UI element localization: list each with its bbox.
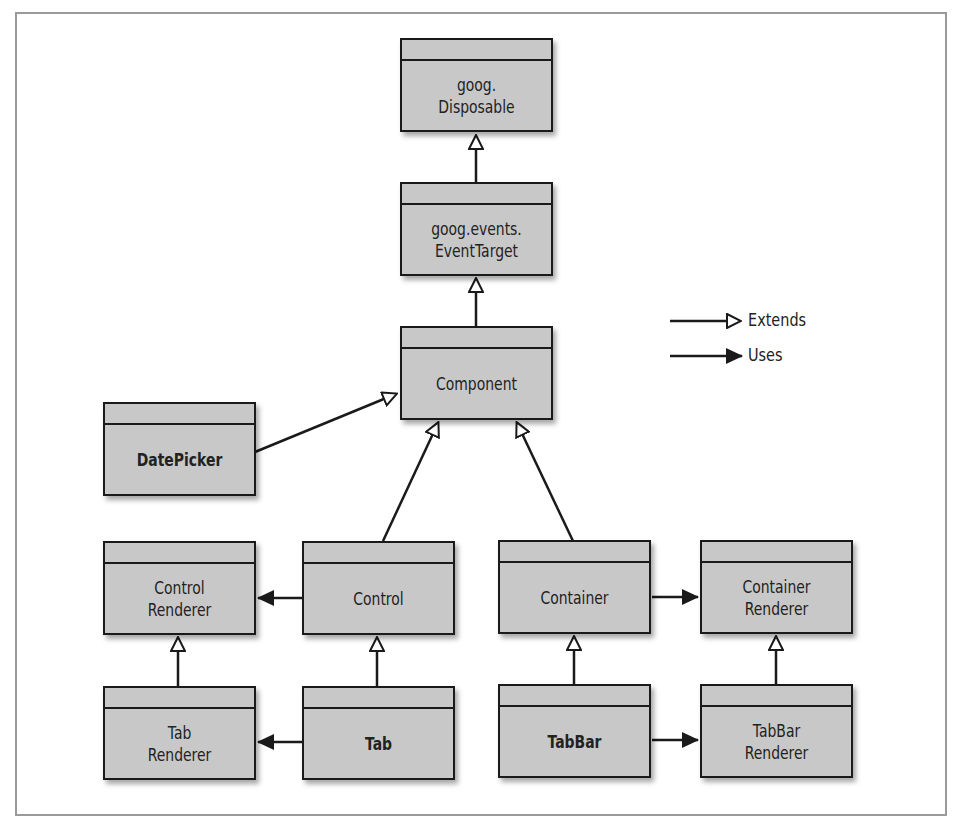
class-header bbox=[402, 328, 551, 349]
class-header bbox=[500, 686, 649, 707]
class-box-tab-renderer: Tab Renderer bbox=[103, 686, 256, 780]
class-name: Tab Renderer bbox=[118, 709, 240, 778]
class-header bbox=[500, 542, 649, 563]
class-header bbox=[702, 686, 851, 707]
class-header bbox=[105, 404, 254, 425]
class-name: goog. Disposable bbox=[415, 61, 537, 130]
class-name: TabBar bbox=[513, 707, 635, 776]
class-box-control: Control bbox=[302, 541, 455, 635]
class-header bbox=[105, 688, 254, 709]
class-name: Control bbox=[317, 564, 439, 633]
class-header bbox=[304, 688, 453, 709]
extends-arrow-container-component bbox=[517, 423, 573, 541]
class-box-control-renderer: Control Renderer bbox=[103, 541, 256, 635]
class-box-goog-disposable: goog. Disposable bbox=[400, 38, 553, 132]
class-box-goog-events-eventtarget: goog.events. EventTarget bbox=[400, 182, 553, 276]
class-box-container-renderer: Container Renderer bbox=[700, 540, 853, 634]
legend-extends-label: Extends bbox=[748, 310, 806, 330]
class-name: Container Renderer bbox=[715, 563, 837, 632]
class-header bbox=[702, 542, 851, 563]
class-box-tab: Tab bbox=[302, 686, 455, 780]
extends-arrow-control-component bbox=[383, 423, 438, 541]
extends-arrow-datepicker-component bbox=[255, 394, 396, 452]
class-box-component: Component bbox=[400, 326, 553, 420]
class-name: goog.events. EventTarget bbox=[415, 205, 537, 274]
class-header bbox=[304, 543, 453, 564]
class-box-container: Container bbox=[498, 540, 651, 634]
class-name: Container bbox=[513, 563, 635, 632]
legend-uses-label: Uses bbox=[748, 345, 783, 365]
class-name: Tab bbox=[317, 709, 439, 778]
class-box-tabbar-renderer: TabBar Renderer bbox=[700, 684, 853, 778]
class-name: Control Renderer bbox=[118, 564, 240, 633]
class-header bbox=[105, 543, 254, 564]
class-header bbox=[402, 184, 551, 205]
class-name: Component bbox=[415, 349, 537, 418]
class-box-tabbar: TabBar bbox=[498, 684, 651, 778]
class-name: DatePicker bbox=[118, 425, 240, 494]
class-box-datepicker: DatePicker bbox=[103, 402, 256, 496]
class-header bbox=[402, 40, 551, 61]
class-name: TabBar Renderer bbox=[715, 707, 837, 776]
